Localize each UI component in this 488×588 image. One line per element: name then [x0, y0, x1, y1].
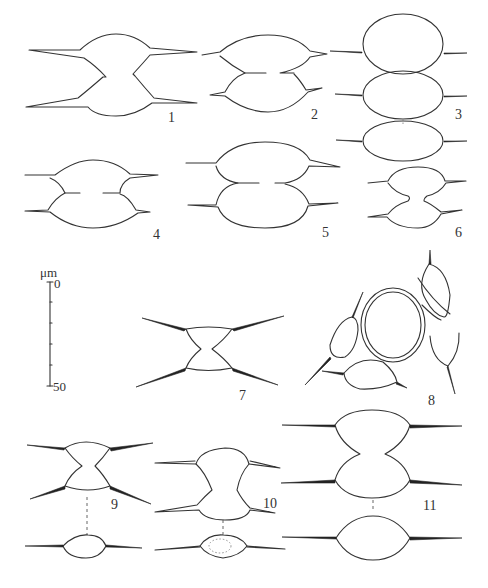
figure-label-4: 4	[153, 228, 160, 242]
cell-drawing-7	[136, 316, 284, 387]
cell-drawing-5	[186, 142, 340, 228]
cell-drawing-11	[281, 410, 462, 560]
figure-label-11: 11	[423, 499, 436, 513]
scale-end-label: 50	[53, 379, 66, 395]
figure-label-5: 5	[322, 226, 329, 240]
figure-plate	[0, 0, 488, 588]
figure-label-7: 7	[239, 389, 246, 403]
figure-label-3: 3	[455, 108, 462, 122]
cell-drawing-9	[25, 442, 153, 558]
cell-drawing-8	[305, 250, 459, 394]
cell-drawing-4	[25, 160, 158, 228]
cell-drawing-3	[330, 14, 467, 161]
scale-start-label: 0	[54, 276, 61, 292]
figure-label-6: 6	[455, 226, 462, 240]
figure-label-9: 9	[111, 498, 118, 512]
figure-label-8: 8	[428, 394, 435, 408]
cell-drawing-2	[202, 35, 327, 112]
figure-label-10: 10	[263, 497, 277, 511]
figure-label-2: 2	[311, 108, 318, 122]
cell-drawing-1	[26, 34, 197, 116]
cell-drawing-6	[368, 167, 466, 228]
scale-bar	[47, 282, 53, 386]
figure-label-1: 1	[168, 111, 175, 125]
